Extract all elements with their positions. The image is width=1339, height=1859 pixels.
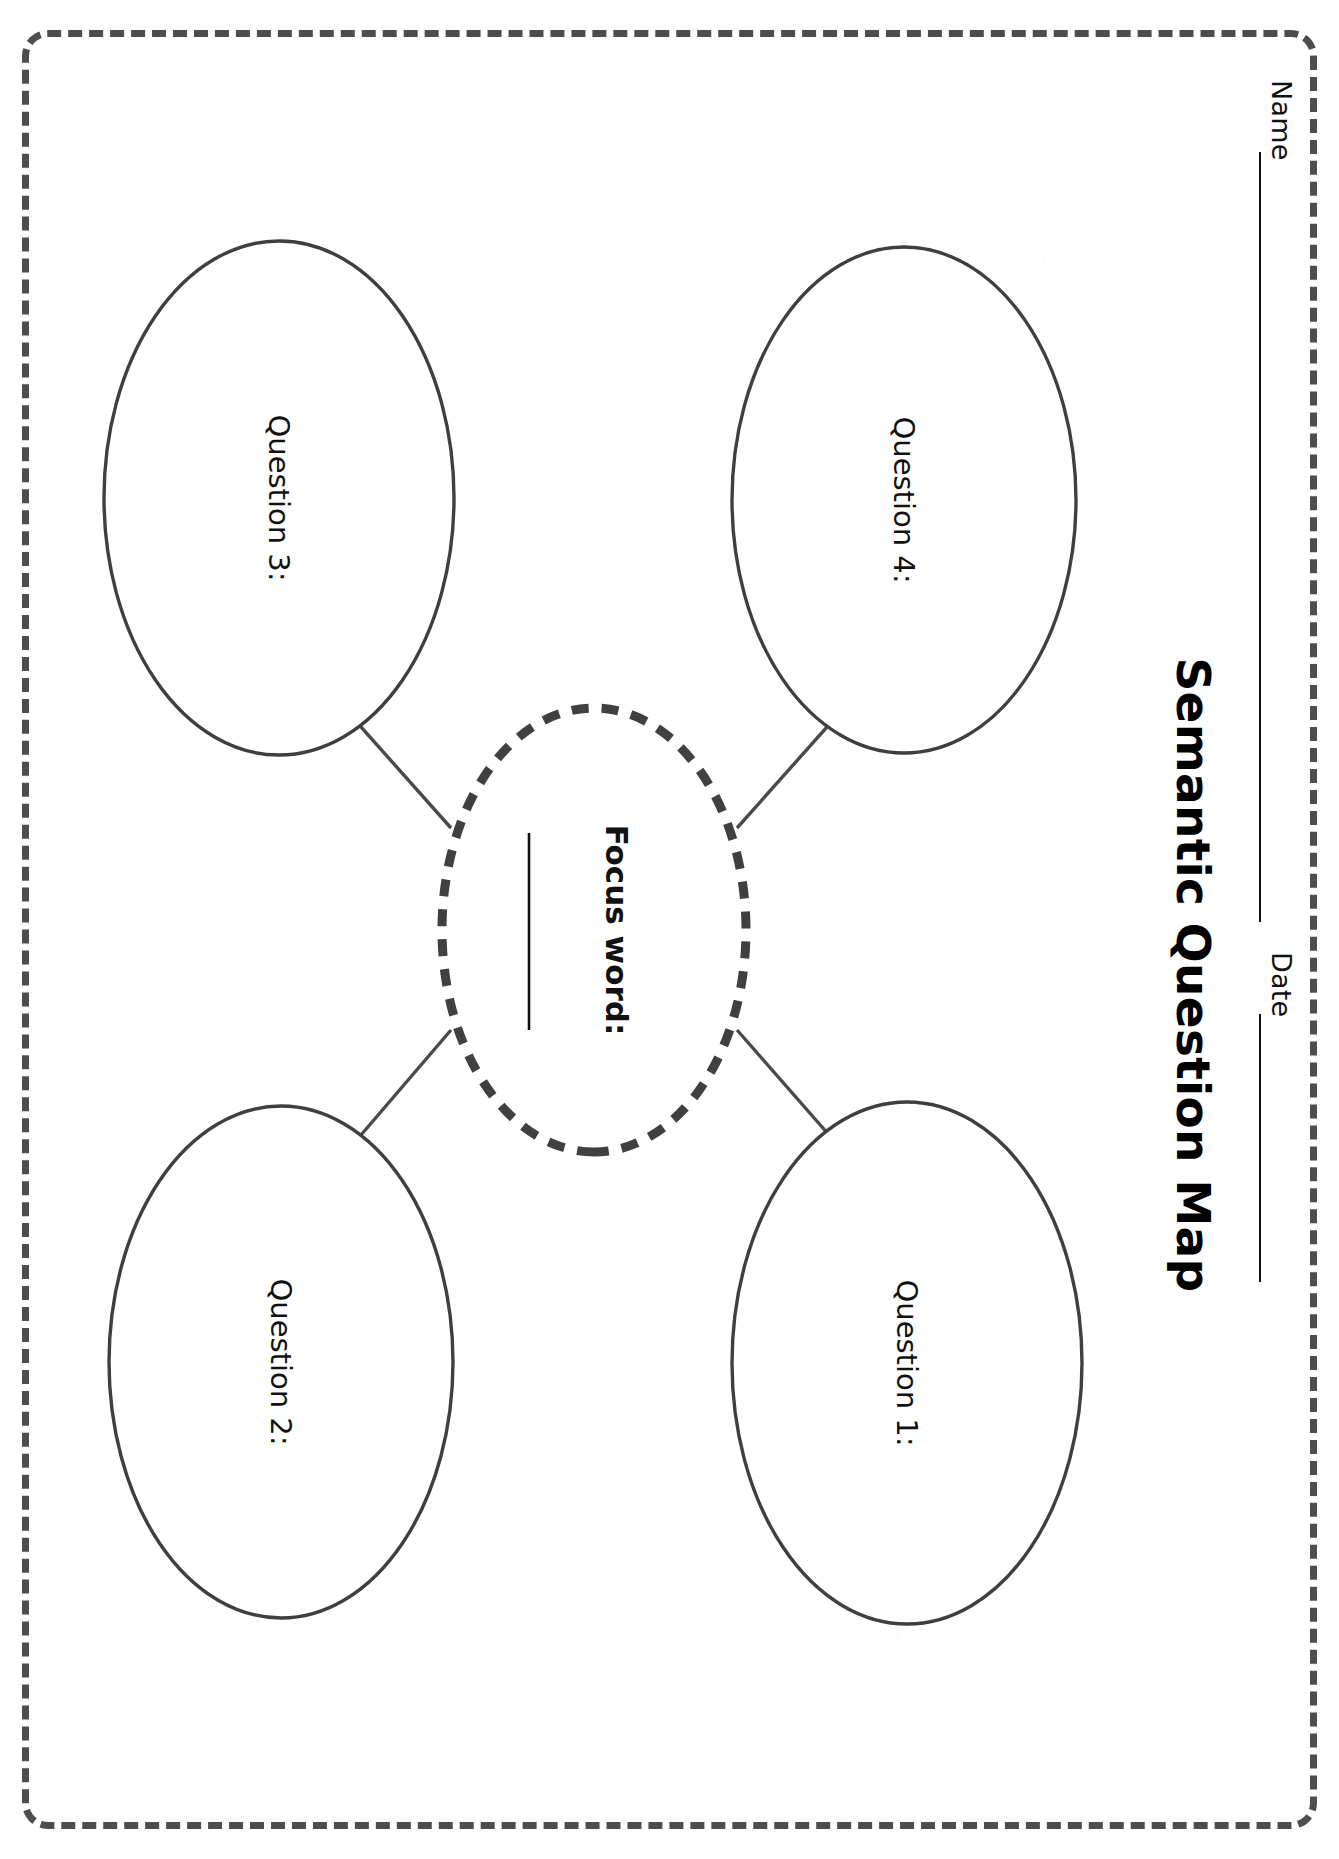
worksheet-sheet: Name Date Semantic Question Map <box>0 0 1339 1859</box>
focus-word-label: Focus word: <box>599 825 635 1036</box>
date-label: Date <box>1266 952 1297 1017</box>
question-label-q3: Question 3: <box>262 414 296 581</box>
name-input-line[interactable] <box>1259 152 1261 922</box>
rotated-page-wrapper: Name Date Semantic Question Map <box>0 0 1339 1859</box>
name-label: Name <box>1266 80 1297 160</box>
semantic-map-canvas: Question 4: Question 1: Question 3: Ques… <box>9 0 1189 1859</box>
question-label-q2: Question 2: <box>264 1278 298 1445</box>
worksheet-header: Name Date Semantic Question Map <box>1185 80 1305 1780</box>
question-label-q4: Question 4: <box>887 416 921 583</box>
date-input-line[interactable] <box>1259 1014 1261 1282</box>
question-label-q1: Question 1: <box>890 1279 924 1446</box>
focus-word-ellipse[interactable] <box>442 708 746 1152</box>
